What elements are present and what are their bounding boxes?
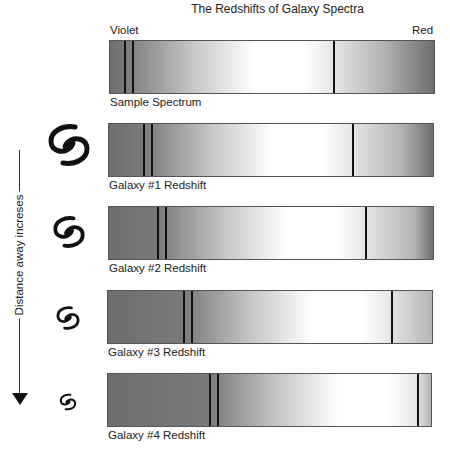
spectrum-bar — [107, 373, 432, 427]
absorption-line — [191, 291, 193, 343]
arrow-down-icon — [12, 393, 28, 405]
spiral-galaxy-icon — [50, 213, 88, 251]
spiral-galaxy-icon — [54, 304, 82, 332]
absorption-line — [183, 291, 185, 343]
spectrum-label: Galaxy #1 Redshift — [109, 179, 206, 191]
violet-label: Violet — [110, 24, 139, 36]
spectrum-label: Galaxy #2 Redshift — [109, 262, 206, 274]
spectrum-bar — [108, 206, 434, 260]
absorption-line — [333, 41, 335, 93]
diagram-title: The Redshifts of Galaxy Spectra — [0, 2, 450, 16]
spectrum-label: Galaxy #4 Redshift — [108, 429, 205, 441]
absorption-line — [365, 207, 367, 259]
spiral-galaxy-icon — [58, 392, 78, 412]
spectrum-bar — [107, 290, 433, 344]
absorption-line — [165, 207, 167, 259]
absorption-line — [209, 374, 211, 426]
absorption-line — [157, 207, 159, 259]
spectrum-bar — [109, 40, 435, 94]
absorption-line — [417, 374, 419, 426]
absorption-line — [124, 41, 126, 93]
absorption-line — [132, 41, 134, 93]
red-label: Red — [412, 24, 433, 36]
absorption-line — [391, 291, 393, 343]
absorption-line — [217, 374, 219, 426]
absorption-line — [352, 124, 354, 176]
spiral-galaxy-icon — [44, 120, 94, 170]
spectrum-label: Galaxy #3 Redshift — [108, 346, 205, 358]
absorption-line — [151, 124, 153, 176]
distance-label: Distance away increses — [13, 192, 25, 319]
spectrum-bar — [108, 123, 434, 177]
spectrum-label: Sample Spectrum — [110, 96, 201, 108]
absorption-line — [143, 124, 145, 176]
